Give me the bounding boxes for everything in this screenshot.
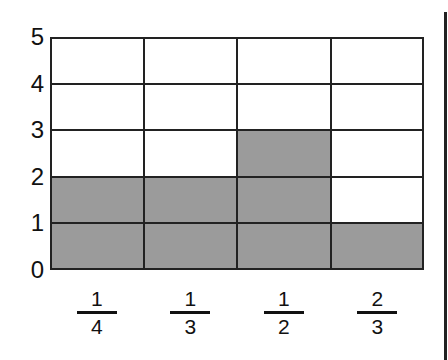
fraction-denominator: 3: [352, 316, 402, 338]
fraction-denominator: 4: [72, 316, 122, 338]
fraction-bar: [264, 311, 304, 314]
y-tick-label: 1: [0, 211, 44, 235]
x-category-label: 23: [352, 288, 402, 338]
plot-frame: [50, 37, 424, 270]
fraction-numerator: 1: [259, 288, 309, 310]
x-category-label: 14: [72, 288, 122, 338]
y-tick-label: 4: [0, 72, 44, 96]
fraction-denominator: 3: [165, 316, 215, 338]
x-category-label: 13: [165, 288, 215, 338]
y-tick-label: 3: [0, 118, 44, 142]
x-category-label: 12: [259, 288, 309, 338]
y-tick-label: 0: [0, 258, 44, 282]
fraction-numerator: 2: [352, 288, 402, 310]
y-tick-label: 2: [0, 165, 44, 189]
y-tick-label: 5: [0, 25, 44, 49]
fraction-bar: [357, 311, 397, 314]
right-border-rule: [444, 12, 447, 360]
fraction-bar: [77, 311, 117, 314]
fraction-numerator: 1: [165, 288, 215, 310]
fraction-numerator: 1: [72, 288, 122, 310]
fraction-denominator: 2: [259, 316, 309, 338]
fraction-bar: [170, 311, 210, 314]
plot-area: [50, 37, 424, 270]
